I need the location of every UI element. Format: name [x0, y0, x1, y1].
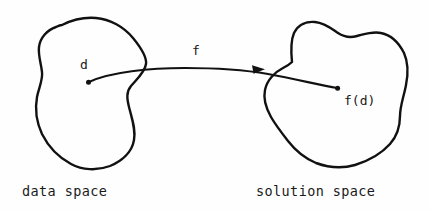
- mapping-label: f: [192, 43, 200, 58]
- solution-space-caption: solution space: [256, 183, 375, 199]
- target-point-dot: [335, 86, 340, 91]
- source-point-dot: [86, 80, 91, 85]
- source-point-label: d: [80, 57, 88, 72]
- target-point-label: f(d): [344, 93, 375, 108]
- data-space-blob: [36, 18, 146, 169]
- data-space-caption: data space: [22, 183, 107, 199]
- mapping-arrow-path: [89, 68, 337, 88]
- mapping-diagram: d f f(d) data space solution space: [0, 0, 431, 211]
- diagram-canvas: d f f(d) data space solution space: [0, 0, 431, 211]
- solution-space-blob: [264, 22, 407, 167]
